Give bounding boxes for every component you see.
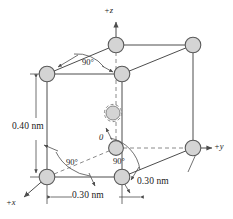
- atom-body-center: [104, 104, 121, 121]
- x-axis-label: +x: [6, 197, 16, 207]
- angle-right-label: 90°: [113, 156, 125, 166]
- cell-back-face-edges: [116, 45, 193, 177]
- atom-front-bottom-left: [39, 169, 55, 185]
- width-y-dimension-label: 0.30 nm: [137, 176, 169, 186]
- atom-back-top-right: [185, 37, 201, 53]
- y-axis-label: +y: [214, 141, 224, 151]
- height-dimension-label: 0.40 nm: [12, 121, 44, 131]
- x-axis-interior-dashed: [47, 148, 116, 177]
- angle-top-label: 90°: [82, 57, 94, 67]
- atom-back-top-left: [108, 37, 124, 53]
- angle-top-indicator: [0, 0, 113, 72]
- unit-cell-diagram: [0, 0, 233, 219]
- atom-front-bottom-right: [114, 169, 130, 185]
- origin-label: 0: [99, 132, 103, 142]
- z-axis-label: +z: [104, 5, 113, 15]
- angle-left-label: 90°: [66, 157, 78, 167]
- figure-canvas: +z +y +x 0 0.40 nm 0.30 nm 0.30 nm 90° 9…: [0, 0, 233, 219]
- atom-back-bottom-right: [185, 140, 201, 156]
- atom-front-top-left: [39, 66, 55, 82]
- atom-origin-back-bottom-left: [109, 141, 124, 156]
- cell-front-face-edges: [47, 74, 122, 177]
- atom-front-top-right: [114, 66, 130, 82]
- width-x-dimension-label: 0.30 nm: [72, 190, 104, 200]
